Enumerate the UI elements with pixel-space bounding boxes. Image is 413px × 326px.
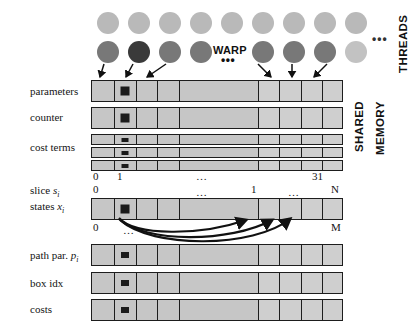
cost-terms-1-cell-7 xyxy=(302,148,323,157)
counter-cell-3 xyxy=(158,108,180,128)
parameters-cell-8 xyxy=(323,81,342,101)
warp-tick-dots: … xyxy=(196,170,208,182)
thread-circle-top-8 xyxy=(345,12,367,34)
thread-arrow-1 xyxy=(126,64,133,77)
thread-circle-top-5 xyxy=(252,12,274,34)
cost-terms-1-cell-4 xyxy=(180,148,258,157)
states-cell-3 xyxy=(158,199,180,219)
counter-cell-6 xyxy=(280,108,302,128)
thread-circle-top-4 xyxy=(221,12,243,34)
parameters-bar xyxy=(91,80,343,102)
thread-arrow-5 xyxy=(314,64,327,77)
box-idx-marker xyxy=(121,280,129,286)
thread-circle-warp-5 xyxy=(283,41,305,63)
diagram-canvas: ••• WARP ••• THREADS SHARED MEMORY param… xyxy=(0,0,413,326)
box-idx-cell-4 xyxy=(180,273,258,293)
costs-cell-8 xyxy=(323,300,342,320)
states-cell-1 xyxy=(115,199,137,219)
states-cell-5 xyxy=(259,199,281,219)
counter-marker xyxy=(121,114,130,123)
cost-terms-0-cell-5 xyxy=(259,135,281,144)
path-par-cell-1 xyxy=(115,245,137,265)
row-label-box-idx: box idx xyxy=(30,277,63,289)
cost-terms-1-cell-8 xyxy=(323,148,342,157)
counter-cell-2 xyxy=(137,108,159,128)
costs-cell-6 xyxy=(280,300,302,320)
cost-terms-2-cell-2 xyxy=(137,161,159,170)
cost-terms-stripe-0 xyxy=(91,134,343,145)
parameters-cell-5 xyxy=(259,81,281,101)
box-idx-cell-8 xyxy=(323,273,342,293)
path-par-bar xyxy=(91,244,343,266)
warp-tick-0: 0 xyxy=(93,170,99,182)
counter-bar xyxy=(91,107,343,129)
cost-terms-2-cell-0 xyxy=(92,161,115,170)
cost-terms-0-cell-3 xyxy=(158,135,180,144)
thread-circle-warp-3 xyxy=(190,41,212,63)
cost-terms-0-cell-7 xyxy=(302,135,323,144)
path-par-cell-3 xyxy=(158,245,180,265)
path-par-cell-6 xyxy=(280,245,302,265)
path-par-cell-2 xyxy=(137,245,159,265)
states-curve-0 xyxy=(119,218,246,232)
box-idx-cell-5 xyxy=(259,273,281,293)
costs-cell-0 xyxy=(92,300,115,320)
states-cell-8 xyxy=(323,199,342,219)
path-par-cell-5 xyxy=(259,245,281,265)
cost-terms-1-cell-3 xyxy=(158,148,180,157)
states-cell-4 xyxy=(180,199,258,219)
counter-cell-0 xyxy=(92,108,115,128)
states-tick-0: 0 xyxy=(93,221,99,233)
box-idx-cell-3 xyxy=(158,273,180,293)
cost-terms-1-cell-6 xyxy=(280,148,302,157)
box-idx-cell-1 xyxy=(115,273,137,293)
costs-cell-5 xyxy=(259,300,281,320)
thread-circle-top-7 xyxy=(314,12,336,34)
parameters-cell-1 xyxy=(115,81,137,101)
warp-tick-31: 31 xyxy=(312,170,323,182)
box-idx-cell-0 xyxy=(92,273,115,293)
parameters-cell-4 xyxy=(180,81,258,101)
states-cell-2 xyxy=(137,199,159,219)
cost-terms-0-cell-0 xyxy=(92,135,115,144)
cost-terms-0-marker xyxy=(122,138,129,142)
row-label-slice-sub: i xyxy=(57,190,59,199)
thread-circle-top-2 xyxy=(159,12,181,34)
thread-arrow-3 xyxy=(258,64,271,77)
cost-terms-0-cell-2 xyxy=(137,135,159,144)
cost-terms-2-cell-5 xyxy=(259,161,281,170)
cost-terms-1-cell-1 xyxy=(115,148,137,157)
path-par-cell-0 xyxy=(92,245,115,265)
states-marker xyxy=(121,205,130,214)
cost-terms-2-cell-6 xyxy=(280,161,302,170)
costs-marker xyxy=(121,307,129,313)
threads-vertical-label: THREADS xyxy=(397,15,409,73)
box-idx-cell-6 xyxy=(280,273,302,293)
states-curve-2 xyxy=(120,219,290,241)
cost-terms-0-cell-6 xyxy=(280,135,302,144)
row-label-parameters: parameters xyxy=(30,85,78,97)
parameters-cell-2 xyxy=(137,81,159,101)
parameters-marker xyxy=(121,87,130,96)
counter-cell-5 xyxy=(259,108,281,128)
costs-bar xyxy=(91,299,343,321)
costs-cell-3 xyxy=(158,300,180,320)
counter-cell-4 xyxy=(180,108,258,128)
states-cell-7 xyxy=(302,199,323,219)
cost-terms-stripe-2 xyxy=(91,160,343,171)
states-tick-dots: … xyxy=(123,224,135,236)
cost-terms-2-cell-7 xyxy=(302,161,323,170)
cost-terms-2-cell-3 xyxy=(158,161,180,170)
row-label-cost-terms: cost terms xyxy=(30,141,75,153)
slice-tick-N: N xyxy=(331,183,339,195)
row-label-costs: costs xyxy=(30,303,52,315)
warp-dots: ••• xyxy=(221,58,235,62)
cost-terms-1-cell-5 xyxy=(259,148,281,157)
thread-arrow-0 xyxy=(100,64,104,77)
parameters-cell-7 xyxy=(302,81,323,101)
thread-circle-warp-7 xyxy=(345,41,367,63)
box-idx-cell-2 xyxy=(137,273,159,293)
path-par-cell-8 xyxy=(323,245,342,265)
cost-terms-2-cell-4 xyxy=(180,161,258,170)
parameters-cell-3 xyxy=(158,81,180,101)
